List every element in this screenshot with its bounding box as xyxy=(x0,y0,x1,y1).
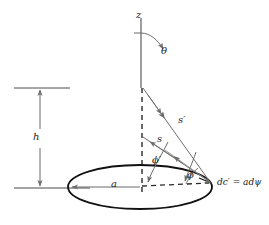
theta-angle-label: θ xyxy=(161,46,167,56)
vector-s-prime-direction xyxy=(148,95,160,112)
z-axis-label: z xyxy=(136,10,141,20)
radius-label: a xyxy=(111,179,117,189)
element-equation-label: dc′ = adψ xyxy=(217,178,261,187)
phi-angle-label: ϕ xyxy=(187,170,194,180)
phi-prime-ray-arrow xyxy=(176,158,182,163)
vector-s-prime-label: s′ xyxy=(178,115,185,125)
vector-s-label: s xyxy=(157,134,162,144)
diagram-canvas xyxy=(0,0,269,225)
baseline-dashed xyxy=(142,183,209,186)
physics-diagram: z θ h a s s′ ϕ′ ϕ dc′ = adψ xyxy=(0,0,269,225)
phi-prime-angle-label: ϕ′ xyxy=(152,155,161,165)
height-label: h xyxy=(33,132,39,142)
theta-arc xyxy=(141,33,163,49)
